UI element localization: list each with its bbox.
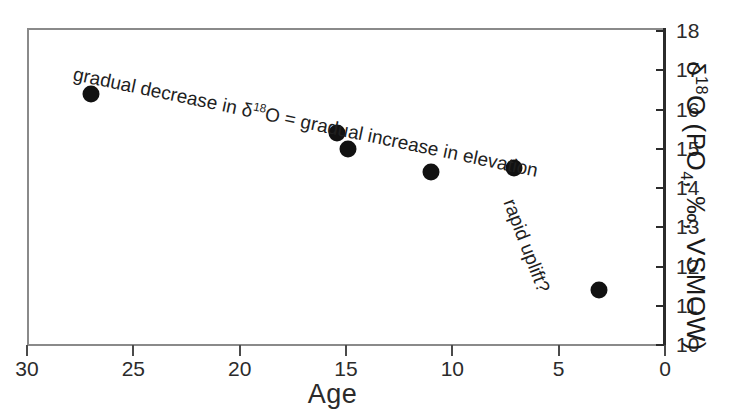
data-point [591,282,608,299]
y-axis-tick [656,266,666,268]
x-axis-tick [451,345,453,356]
y-axis-tick [656,305,666,307]
annotation-gradual-suffix: = gradual increase in elevation [278,106,540,180]
x-axis-tick [664,345,666,356]
plot-frame-left [27,28,29,346]
x-axis-tick-label: 30 [15,358,38,379]
x-axis-tick-label: 0 [659,358,671,379]
y-axis-phosphate-open: (PO [681,116,711,171]
y-axis-tick [656,30,666,32]
y-axis-isotope-superscript: 18 [693,76,711,95]
y-axis-tick [656,226,666,228]
annotation-gradual-decrease: gradual decrease in δ18O = gradual incre… [71,62,540,182]
plot-frame-top [27,28,665,30]
annotation-rapid-uplift: rapid uplift? [498,196,554,296]
y-axis-tick-label: 18 [676,20,699,41]
x-axis-tick [132,345,134,356]
x-axis-tick [239,345,241,356]
x-axis-tick-label: 25 [122,358,145,379]
y-axis-title: δ18O (PO4, ‰, VSMOW) [677,61,712,351]
y-axis-tick [656,109,666,111]
x-axis-tick [26,345,28,356]
x-axis-tick-label: 5 [553,358,565,379]
y-axis-oxygen-symbol: O [681,95,711,116]
data-point [423,164,440,181]
y-axis-delta-symbol: δ [681,61,711,76]
x-axis-tick-label: 20 [228,358,251,379]
x-axis-tick-label: 10 [441,358,464,379]
y-axis-tick [656,69,666,71]
y-axis-tick [656,148,666,150]
y-axis-tick [656,187,666,189]
y-axis-phosphate-subscript: 4 [678,171,696,180]
x-axis-tick [345,345,347,356]
isotope-elevation-scatter-chart: 181716151413121110 302520151050 gradual … [0,0,748,412]
x-axis-tick [558,345,560,356]
x-axis-tick-label: 15 [334,358,357,379]
y-axis-units-tail: , ‰, VSMOW) [681,181,711,351]
x-axis-title: Age [0,379,665,410]
